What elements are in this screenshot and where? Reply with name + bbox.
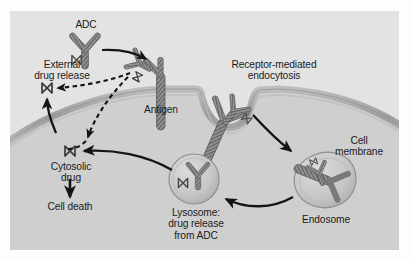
label-rme-line1: Receptor-mediated bbox=[232, 59, 317, 70]
antigen-stalk bbox=[157, 73, 166, 130]
label-adc: ADC bbox=[66, 19, 106, 30]
label-lysosome-line1: Lysosome: bbox=[172, 207, 220, 218]
label-cell-membrane: Cell membrane bbox=[322, 135, 396, 158]
label-endosome: Endosome bbox=[294, 214, 358, 225]
external-drug-molecule bbox=[42, 83, 52, 93]
lysosome-membrane bbox=[169, 154, 219, 204]
adc-arm-right-hatch bbox=[85, 36, 98, 50]
label-cell-membrane-line1: Cell bbox=[350, 135, 367, 146]
adc-arm-left-hatch bbox=[73, 36, 86, 50]
label-cytosolic-drug-line2: drug bbox=[61, 172, 81, 183]
label-lysosome-line2: drug release bbox=[168, 218, 223, 229]
label-rme-line2: endocytosis bbox=[248, 70, 301, 81]
figure-page: ADC External drug release Antigen Recept… bbox=[0, 0, 411, 259]
label-cell-membrane-line2: membrane bbox=[335, 146, 383, 157]
label-receptor-mediated-endocytosis: Receptor-mediated endocytosis bbox=[210, 59, 338, 82]
bound-adc-drug-payload bbox=[132, 72, 142, 82]
label-cytosolic-drug: Cytosolic drug bbox=[30, 161, 112, 184]
label-antigen: Antigen bbox=[126, 104, 196, 115]
label-lysosome-line3: from ADC bbox=[174, 230, 217, 241]
adc-mechanism-figure: ADC External drug release Antigen Recept… bbox=[10, 11, 399, 250]
lysosome-vesicle bbox=[169, 154, 219, 204]
label-lysosome: Lysosome: drug release from ADC bbox=[142, 207, 250, 241]
label-cell-death: Cell death bbox=[28, 201, 112, 212]
label-cytosolic-drug-line1: Cytosolic bbox=[51, 161, 91, 172]
label-external-drug-release: External drug release bbox=[10, 59, 114, 82]
label-external-drug-release-line1: External bbox=[44, 59, 81, 70]
label-external-drug-release-line2: drug release bbox=[34, 70, 89, 81]
